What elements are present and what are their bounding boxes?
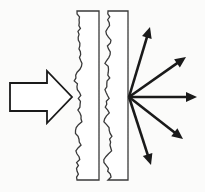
slab-two — [104, 11, 128, 180]
ray-down-steep-head — [143, 153, 153, 165]
ray-up-steep — [129, 27, 152, 97]
ray-up-steep-head — [142, 27, 152, 39]
ray-up-diagonal-shaft — [129, 62, 179, 97]
ray-horizontal-head — [186, 92, 197, 102]
barrier-slabs — [74, 11, 128, 180]
incident-beam-block-arrow — [10, 71, 72, 123]
ray-up-diagonal-head — [174, 57, 186, 67]
scattered-rays-group — [129, 27, 197, 165]
slab-one — [74, 11, 99, 180]
figure-root: Wave scattering from a rough double-laye… — [0, 0, 205, 192]
ray-up-steep-shaft — [129, 36, 147, 97]
scattering-diagram — [0, 0, 205, 192]
incident-beam-arrow — [10, 71, 72, 123]
ray-horizontal — [129, 92, 197, 102]
ray-up-diagonal — [129, 57, 186, 97]
